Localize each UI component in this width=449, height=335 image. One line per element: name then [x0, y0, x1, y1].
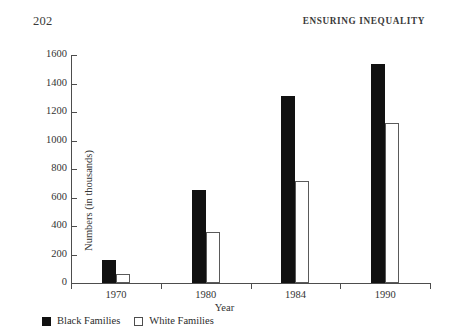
- y-axis-title: Numbers (in thousands): [83, 121, 94, 281]
- bar: [102, 260, 116, 283]
- bar-chart: 02004006008001000120014001600 1970198019…: [0, 0, 449, 300]
- plot-area: Numbers (in thousands): [71, 55, 430, 283]
- y-axis-tick-label: 200: [33, 249, 67, 260]
- y-axis-tick-label-wrap: 1200: [30, 112, 67, 113]
- y-axis-tick-label: 1200: [33, 106, 67, 117]
- bar: [295, 181, 309, 283]
- y-axis-tick-label: 600: [33, 192, 67, 203]
- x-axis-tick: [71, 283, 72, 289]
- x-axis-tick-label: 1970: [86, 289, 146, 301]
- y-axis-tick-label: 0: [33, 277, 67, 288]
- y-axis-tick-label: 1000: [33, 135, 67, 146]
- y-axis-tick-label: 1600: [33, 49, 67, 60]
- legend-item: Black Families: [42, 316, 120, 327]
- y-axis-tick-label: 800: [33, 163, 67, 174]
- x-axis-tick: [251, 283, 252, 289]
- y-axis-tick-label: 400: [33, 220, 67, 231]
- y-axis-tick-label-wrap: 400: [30, 226, 67, 227]
- x-axis-tick-label: 1980: [176, 289, 236, 301]
- bar: [281, 96, 295, 283]
- y-axis-tick-label-wrap: 0: [30, 283, 67, 284]
- chart-legend: Black FamiliesWhite Families: [42, 316, 228, 327]
- x-axis-tick-label: 1990: [355, 289, 415, 301]
- bar: [116, 274, 130, 283]
- x-axis-tick-label: 1984: [265, 289, 325, 301]
- y-axis-tick-label-wrap: 600: [30, 198, 67, 199]
- x-axis-tick: [430, 283, 431, 289]
- legend-label: White Families: [149, 316, 213, 327]
- x-axis-tick: [161, 283, 162, 289]
- legend-label: Black Families: [57, 316, 120, 327]
- y-axis-tick-label-wrap: 1400: [30, 84, 67, 85]
- legend-swatch-hollow-icon: [134, 317, 143, 326]
- x-axis-title: Year: [0, 302, 449, 313]
- bar: [371, 64, 385, 283]
- bar: [385, 123, 399, 283]
- y-axis-tick-label-wrap: 1600: [30, 55, 67, 56]
- y-axis-tick-label-wrap: 200: [30, 255, 67, 256]
- legend-item: White Families: [134, 316, 213, 327]
- y-axis-tick-label: 1400: [33, 78, 67, 89]
- y-axis-tick-label-wrap: 800: [30, 169, 67, 170]
- legend-swatch-filled-icon: [42, 317, 51, 326]
- bar: [192, 190, 206, 283]
- x-axis-tick: [340, 283, 341, 289]
- bar: [206, 232, 220, 283]
- y-axis-tick-label-wrap: 1000: [30, 141, 67, 142]
